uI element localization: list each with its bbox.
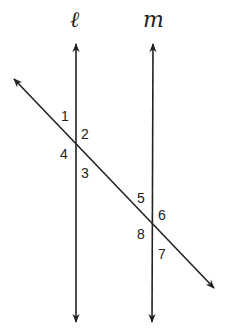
transversal-line bbox=[14, 79, 214, 288]
line-name-l: ℓ bbox=[70, 7, 80, 32]
angle-label-6: 6 bbox=[158, 207, 166, 223]
angle-label-8: 8 bbox=[137, 226, 145, 242]
angle-label-4: 4 bbox=[60, 146, 68, 162]
angle-label-2: 2 bbox=[81, 126, 89, 142]
line-m bbox=[152, 44, 153, 322]
angle-label-5: 5 bbox=[137, 190, 145, 206]
angle-label-3: 3 bbox=[81, 165, 89, 181]
angle-label-1: 1 bbox=[61, 108, 69, 124]
diagram-canvas: ℓ m 1 2 3 4 5 6 7 8 bbox=[0, 0, 233, 333]
line-name-m: m bbox=[143, 7, 164, 32]
angle-label-7: 7 bbox=[158, 246, 166, 262]
